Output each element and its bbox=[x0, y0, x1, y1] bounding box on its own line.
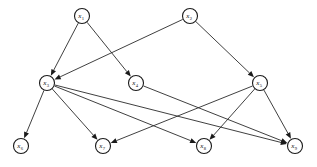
arrow-head-icon bbox=[111, 138, 118, 143]
edge-line bbox=[87, 22, 127, 71]
graph-node-x9[interactable]: x9 bbox=[288, 139, 303, 154]
edge-x3-to-x7 bbox=[52, 89, 97, 140]
edge-x2-to-x3 bbox=[55, 19, 183, 79]
graph-node-x3[interactable]: x3 bbox=[40, 76, 55, 91]
edge-line bbox=[27, 90, 44, 132]
edges-layer bbox=[24, 19, 291, 145]
graph-node-x2[interactable]: x2 bbox=[183, 9, 198, 24]
edge-x5-to-x7 bbox=[111, 86, 253, 143]
edge-x1-to-x4 bbox=[87, 22, 131, 76]
edge-line bbox=[196, 22, 250, 73]
graph-node-x7[interactable]: x7 bbox=[96, 139, 111, 154]
graph-node-x6[interactable]: x6 bbox=[14, 139, 29, 154]
edge-x3-to-x6 bbox=[24, 90, 44, 138]
graph-canvas: x1x2x3x4x5x6x7x8x9 bbox=[0, 0, 317, 167]
graph-node-x8[interactable]: x8 bbox=[197, 139, 212, 154]
edge-x4-to-x9 bbox=[144, 86, 288, 143]
edge-line bbox=[55, 85, 281, 142]
edge-line bbox=[60, 19, 183, 76]
graph-node-x1[interactable]: x1 bbox=[75, 9, 90, 24]
edge-x1-to-x3 bbox=[51, 23, 78, 75]
arrow-head-icon bbox=[190, 138, 197, 143]
edge-x2-to-x5 bbox=[196, 22, 254, 78]
edge-line bbox=[55, 86, 191, 141]
edge-x3-to-x9 bbox=[55, 85, 287, 145]
edge-line bbox=[116, 86, 252, 141]
edge-line bbox=[264, 90, 288, 133]
edge-line bbox=[54, 23, 79, 70]
graph-node-x5[interactable]: x5 bbox=[253, 76, 268, 91]
edge-line bbox=[214, 89, 255, 135]
edge-line bbox=[52, 89, 93, 135]
arrow-head-icon bbox=[125, 70, 131, 76]
arrow-head-icon bbox=[24, 132, 29, 139]
edge-line bbox=[144, 86, 282, 141]
graph-figure: x1x2x3x4x5x6x7x8x9 bbox=[0, 0, 317, 167]
edge-x5-to-x9 bbox=[264, 90, 291, 139]
edge-x3-to-x8 bbox=[55, 86, 197, 143]
arrow-head-icon bbox=[281, 138, 288, 143]
graph-node-x4[interactable]: x4 bbox=[129, 76, 144, 91]
